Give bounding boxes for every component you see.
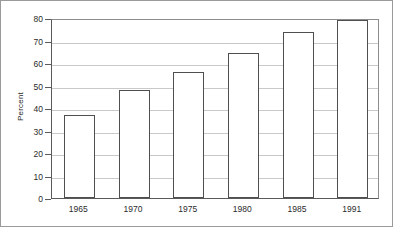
gridline (52, 88, 378, 89)
x-axis-tick-label: 1980 (233, 204, 252, 214)
y-axis-tick-label: 10 (17, 172, 43, 182)
x-axis-tick-label: 1991 (342, 204, 361, 214)
gridline (52, 110, 378, 111)
bar (64, 115, 95, 198)
x-axis-tick-label: 1985 (288, 204, 307, 214)
y-axis-tick (45, 42, 51, 43)
y-axis-tick (45, 87, 51, 88)
x-axis-tick-label: 1975 (178, 204, 197, 214)
gridline (52, 155, 378, 156)
gridline (52, 65, 378, 66)
y-axis-tick-label: 20 (17, 149, 43, 159)
y-axis-tick (45, 64, 51, 65)
y-axis-tick-label: 60 (17, 59, 43, 69)
y-axis-tick (45, 109, 51, 110)
plot-area (51, 19, 379, 199)
bar (283, 32, 314, 199)
y-axis-tick-label: 0 (17, 194, 43, 204)
y-axis-tick (45, 154, 51, 155)
gridline (52, 178, 378, 179)
gridline (52, 43, 378, 44)
x-axis-tick-label: 1970 (124, 204, 143, 214)
y-axis-tick-label: 40 (17, 104, 43, 114)
bar (173, 72, 204, 198)
y-axis-tick (45, 177, 51, 178)
y-axis-tick (45, 199, 51, 200)
y-axis-tick-label: 30 (17, 127, 43, 137)
bar-chart-figure: Percent 01020304050607080 19651970197519… (0, 0, 393, 227)
y-axis-tick-labels: 01020304050607080 (11, 1, 43, 227)
y-axis-tick-label: 50 (17, 82, 43, 92)
y-axis-tick-label: 80 (17, 14, 43, 24)
bar (228, 53, 259, 198)
gridline (52, 133, 378, 134)
y-axis-tick-label: 70 (17, 37, 43, 47)
y-axis-tick (45, 19, 51, 20)
bar (119, 90, 150, 198)
x-axis-tick-label: 1965 (69, 204, 88, 214)
bar (337, 20, 368, 198)
y-axis-tick (45, 132, 51, 133)
